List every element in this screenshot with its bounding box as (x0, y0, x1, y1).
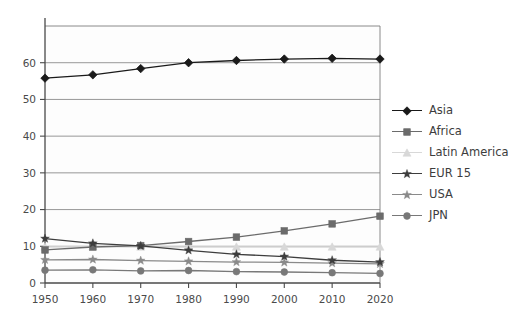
legend-item-africa[interactable]: Africa (392, 121, 524, 142)
data-point-circle (137, 267, 144, 274)
marker-circle (185, 267, 192, 274)
y-axis-tick-label: 20 (23, 203, 36, 215)
marker-square (233, 234, 240, 241)
data-point-circle (233, 268, 240, 275)
legend-swatch (392, 104, 422, 118)
marker-circle (281, 269, 288, 276)
legend-label: Africa (429, 125, 462, 138)
data-point-diamond (403, 106, 411, 114)
legend-label: Latin America (429, 146, 509, 159)
legend-label: EUR 15 (429, 167, 471, 180)
data-point-square (404, 128, 411, 135)
y-axis-tick-label: 60 (23, 57, 36, 69)
legend-swatch (392, 146, 422, 160)
legend-label: JPN (429, 209, 448, 222)
marker-square (42, 247, 49, 254)
marker-circle (89, 266, 96, 273)
legend-item-asia[interactable]: Asia (392, 100, 524, 121)
marker-circle (233, 268, 240, 275)
marker-circle (42, 267, 49, 274)
data-point-square (233, 234, 240, 241)
legend-swatch (392, 167, 422, 181)
data-point-square (42, 247, 49, 254)
data-point-star (403, 169, 412, 177)
x-axis-tick-label: 1990 (223, 293, 250, 305)
x-axis-tick-label: 2020 (367, 293, 394, 305)
y-axis-tick-label: 50 (23, 93, 36, 105)
marker-square (281, 228, 288, 235)
legend-marker-circle-icon (400, 209, 414, 223)
x-axis-tick-label: 1950 (32, 293, 59, 305)
legend-item-latin-america[interactable]: Latin America (392, 142, 524, 163)
data-point-circle (185, 267, 192, 274)
legend-item-jpn[interactable]: JPN (392, 205, 524, 226)
data-point-triangle (403, 148, 411, 155)
data-point-square (185, 238, 192, 245)
marker-star (403, 169, 412, 177)
marker-circle (377, 270, 384, 277)
marker-square (377, 213, 384, 220)
marker-square (404, 128, 411, 135)
legend-marker-star-icon (400, 188, 414, 202)
x-axis-tick-label: 1980 (175, 293, 202, 305)
marker-square (185, 238, 192, 245)
y-axis-tick-label: 30 (23, 167, 36, 179)
marker-circle (137, 267, 144, 274)
chart-figure: 0102030405060195019601970198019902000201… (0, 0, 527, 321)
legend-swatch (392, 209, 422, 223)
x-axis-tick-label: 1960 (79, 293, 106, 305)
marker-star (403, 190, 412, 198)
chart-legend: AsiaAfricaLatin AmericaEUR 15USAJPN (392, 100, 524, 226)
marker-circle (404, 212, 411, 219)
legend-label: Asia (429, 104, 453, 117)
data-point-circle (89, 266, 96, 273)
y-axis-tick-label: 40 (23, 130, 36, 142)
marker-square (329, 221, 336, 228)
marker-circle (329, 269, 336, 276)
legend-item-eur-15[interactable]: EUR 15 (392, 163, 524, 184)
legend-marker-triangle-icon (400, 146, 414, 160)
legend-marker-star-icon (400, 167, 414, 181)
data-point-star (403, 190, 412, 198)
data-point-square (329, 221, 336, 228)
data-point-circle (377, 270, 384, 277)
legend-marker-square-icon (400, 125, 414, 139)
data-point-circle (404, 212, 411, 219)
legend-swatch (392, 188, 422, 202)
data-point-square (377, 213, 384, 220)
x-axis-tick-label: 1970 (127, 293, 154, 305)
data-point-circle (329, 269, 336, 276)
legend-swatch (392, 125, 422, 139)
marker-diamond (403, 106, 411, 114)
legend-label: USA (429, 188, 453, 201)
x-axis-tick-label: 2010 (319, 293, 346, 305)
y-axis-tick-label: 10 (23, 240, 36, 252)
legend-marker-diamond-icon (400, 104, 414, 118)
marker-triangle (403, 148, 411, 155)
x-axis-tick-label: 2000 (271, 293, 298, 305)
legend-item-usa[interactable]: USA (392, 184, 524, 205)
data-point-square (281, 228, 288, 235)
data-point-circle (281, 269, 288, 276)
data-point-circle (42, 267, 49, 274)
y-axis-tick-label: 0 (29, 277, 36, 289)
